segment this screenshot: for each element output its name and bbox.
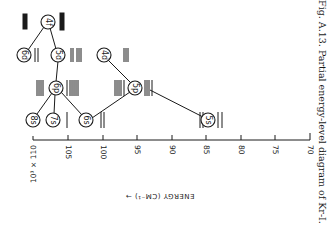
level-label-5d: 5d bbox=[54, 50, 63, 60]
tick-label: 105 bbox=[64, 145, 73, 160]
tick-label: 85 bbox=[202, 145, 211, 155]
level-label-4f: 4f bbox=[44, 18, 53, 26]
level-label-7s: 7s bbox=[49, 115, 58, 124]
axis-title: ENERGY (CM⁻¹) → bbox=[125, 192, 194, 200]
level-bars bbox=[23, 13, 222, 128]
axis-multiplier: 10³ × 110 bbox=[29, 145, 38, 183]
tick-label: 100 bbox=[99, 145, 108, 160]
tick-label: 70 bbox=[306, 145, 315, 155]
level-label-4d: 4d bbox=[100, 50, 109, 60]
tick-label: 95 bbox=[133, 145, 142, 155]
tick-label: 80 bbox=[237, 145, 246, 155]
figure-caption: Fig. A.13. Partial energy-level diagram … bbox=[317, 0, 328, 224]
transition-lines bbox=[28, 27, 205, 118]
energy-axis bbox=[33, 133, 310, 140]
level-label-8s: 8s bbox=[29, 115, 38, 124]
tick-label: 90 bbox=[168, 145, 177, 155]
level-label-5s: 5s bbox=[204, 115, 213, 124]
energy-level-diagram: 4f 6d 5d 4d 6p 5p 8s 7s 6s 5s 105 100 95… bbox=[0, 0, 332, 225]
level-label-6d: 6d bbox=[20, 50, 29, 60]
level-circles bbox=[17, 15, 215, 127]
level-label-6p: 6p bbox=[52, 83, 61, 93]
level-label-5p: 5p bbox=[131, 83, 140, 93]
level-label-6s: 6s bbox=[82, 115, 91, 124]
tick-label: 75 bbox=[271, 145, 280, 155]
